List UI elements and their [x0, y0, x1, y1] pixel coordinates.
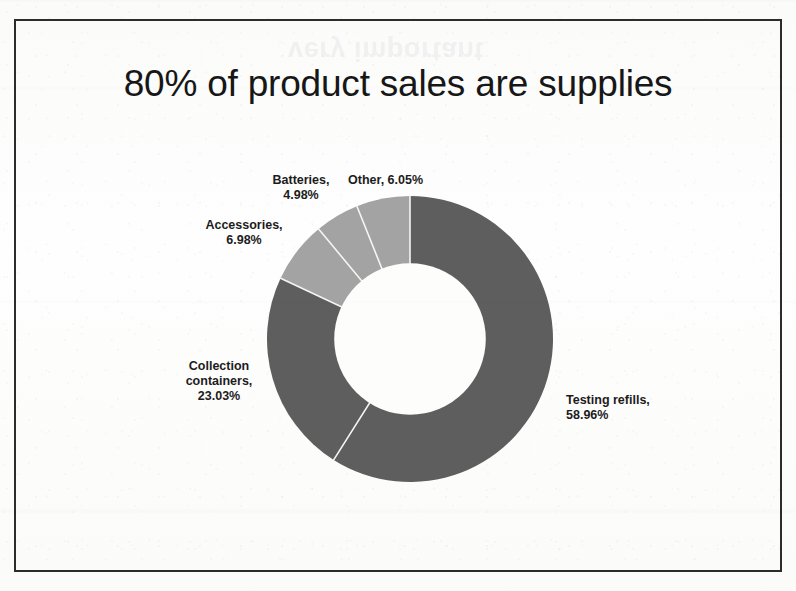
- data-label-accessories: Accessories, 6.98%: [192, 218, 296, 248]
- data-label-other: Other, 6.05%: [348, 173, 458, 188]
- data-label-collection-containers: Collection containers, 23.03%: [160, 359, 278, 404]
- scanned-page: very important 80% of product sales are …: [0, 0, 796, 591]
- data-label-testing-refills: Testing refills, 58.96%: [566, 393, 696, 423]
- donut-chart: Batteries, 4.98% Other, 6.05% Accessorie…: [0, 0, 796, 591]
- donut-hole: [334, 263, 486, 415]
- data-label-batteries: Batteries, 4.98%: [256, 173, 346, 203]
- donut-chart-svg: [255, 184, 565, 494]
